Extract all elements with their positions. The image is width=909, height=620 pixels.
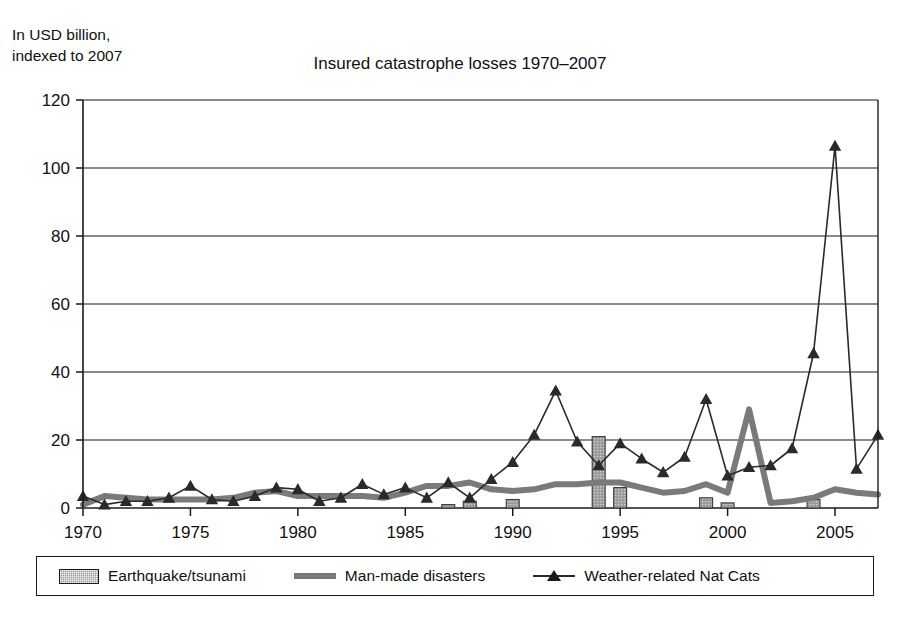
chart-svg: 020406080100120 197019751980198519901995… bbox=[0, 0, 909, 540]
x-tick-label: 2005 bbox=[816, 523, 854, 540]
legend-item-manmade: Man-made disasters bbox=[294, 567, 485, 585]
x-tick-label: 1985 bbox=[386, 523, 424, 540]
legend-label-manmade: Man-made disasters bbox=[345, 567, 485, 585]
x-axis-tick-labels: 19701975198019851990199520002005 bbox=[64, 523, 854, 540]
earthquake-swatch-icon bbox=[59, 569, 99, 584]
y-axis-tick-labels: 020406080100120 bbox=[42, 91, 70, 518]
x-tick-label: 1995 bbox=[601, 523, 639, 540]
chart-legend: Earthquake/tsunami Man-made disasters We… bbox=[36, 556, 874, 596]
y-tick-label: 40 bbox=[51, 363, 70, 382]
x-tick-label: 1990 bbox=[494, 523, 532, 540]
manmade-line-group bbox=[83, 409, 878, 504]
y-tick-label: 100 bbox=[42, 159, 70, 178]
chart-plot-area: 020406080100120 197019751980198519901995… bbox=[0, 0, 909, 540]
legend-item-weather: Weather-related Nat Cats bbox=[533, 567, 759, 585]
legend-label-earthquake: Earthquake/tsunami bbox=[108, 567, 246, 585]
legend-item-earthquake: Earthquake/tsunami bbox=[59, 567, 246, 585]
x-tick-label: 1975 bbox=[172, 523, 210, 540]
weather-swatch-icon bbox=[533, 569, 575, 583]
y-tick-label: 60 bbox=[51, 295, 70, 314]
y-tick-label: 20 bbox=[51, 431, 70, 450]
x-tick-label: 2000 bbox=[709, 523, 747, 540]
y-tick-label: 0 bbox=[61, 499, 70, 518]
manmade-swatch-icon bbox=[294, 573, 336, 579]
x-tick-label: 1970 bbox=[64, 523, 102, 540]
triangle-marker-icon bbox=[547, 570, 561, 581]
y-tick-label: 80 bbox=[51, 227, 70, 246]
weather-line-group bbox=[77, 140, 884, 510]
y-tick-label: 120 bbox=[42, 91, 70, 110]
legend-label-weather: Weather-related Nat Cats bbox=[584, 567, 759, 585]
x-tick-label: 1980 bbox=[279, 523, 317, 540]
